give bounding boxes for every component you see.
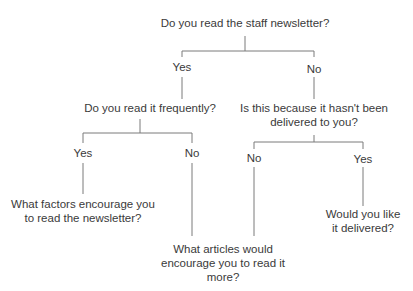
outcome-articles-line1: What articles would (153, 242, 293, 256)
delivery-no-label: No (234, 151, 274, 165)
frequency-question: Do you read it frequently? (80, 101, 220, 115)
outcome-factors: What factors encourage you to read the n… (0, 197, 166, 225)
delivery-question-line1: Is this because it hasn't been (234, 101, 394, 115)
outcome-delivery-line1: Would you like (313, 207, 413, 221)
outcome-articles: What articles would encourage you to rea… (153, 242, 293, 284)
root-yes-label: Yes (162, 60, 202, 74)
delivery-question: Is this because it hasn't been delivered… (234, 101, 394, 129)
delivery-question-line2: delivered to you? (234, 115, 394, 129)
frequency-yes-label: Yes (63, 146, 103, 160)
root-no-label: No (294, 62, 334, 76)
outcome-factors-line2: to read the newsletter? (0, 211, 166, 225)
frequency-no-label: No (172, 146, 212, 160)
outcome-articles-line2: encourage you to read it (153, 256, 293, 270)
outcome-delivery-line2: it delivered? (313, 221, 413, 235)
outcome-articles-line3: more? (153, 270, 293, 284)
outcome-factors-line1: What factors encourage you (0, 197, 166, 211)
outcome-delivery: Would you like it delivered? (313, 207, 413, 235)
delivery-yes-label: Yes (343, 152, 383, 166)
root-question: Do you read the staff newsletter? (150, 16, 340, 30)
